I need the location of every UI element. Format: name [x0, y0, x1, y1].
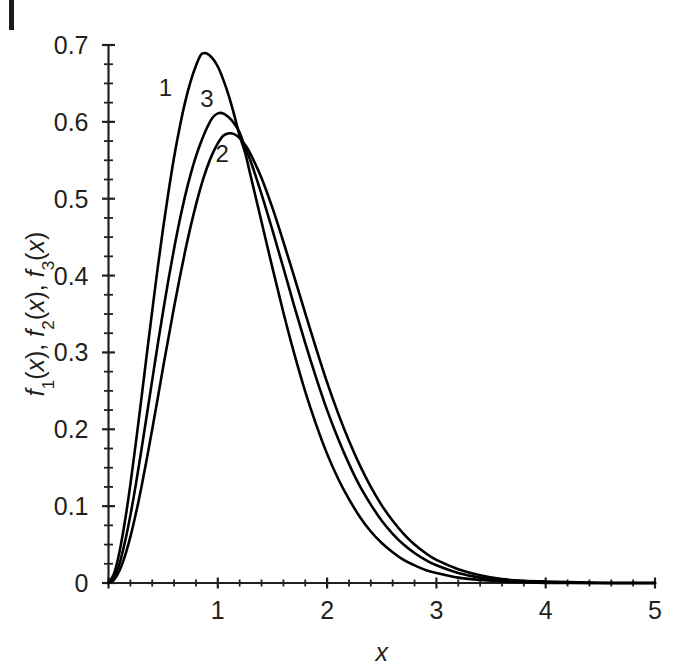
y-tick-label: 0 [75, 569, 89, 597]
curve-2 [109, 133, 656, 583]
y-axis-title-subscript: 3 [39, 261, 58, 270]
curve-3 [109, 113, 656, 583]
x-tick-label: 3 [429, 596, 443, 624]
curve-label-3: 3 [200, 85, 213, 112]
y-axis-title-subscript: 2 [39, 320, 58, 329]
y-tick-label: 0.2 [54, 415, 89, 443]
x-axis-title: x [375, 638, 390, 666]
y-tick-label: 0.7 [54, 31, 89, 59]
figure-container: 12345 00.10.20.30.40.50.60.7 132 xf1(x),… [0, 0, 685, 672]
y-tick-label: 0.5 [54, 185, 89, 213]
x-axis-tick-labels: 12345 [211, 596, 662, 624]
chart-canvas: 12345 00.10.20.30.40.50.60.7 132 xf1(x),… [0, 0, 685, 672]
x-tick-label: 4 [539, 596, 553, 624]
axis-lines [109, 45, 656, 583]
y-tick-label: 0.1 [54, 492, 89, 520]
y-tick-label: 0.6 [54, 108, 89, 136]
curve-label-1: 1 [159, 74, 172, 101]
y-axis-tick-labels: 00.10.20.30.40.50.60.7 [54, 31, 89, 597]
x-tick-label: 1 [211, 596, 225, 624]
x-tick-label: 2 [320, 596, 334, 624]
y-tick-label: 0.4 [54, 262, 89, 290]
y-axis-title-close: ), [21, 284, 49, 299]
axis-titles: xf1(x), f2(x), f3(x) [21, 232, 390, 666]
x-tick-label: 5 [648, 596, 662, 624]
y-tick-label: 0.3 [54, 338, 89, 366]
y-axis-title-close: ), [21, 344, 49, 359]
y-axis-title-close: ) [21, 232, 49, 240]
curve-label-2: 2 [215, 140, 228, 167]
y-axis-title: f1(x), f2(x), f3(x) [21, 232, 58, 397]
data-curves [109, 53, 656, 583]
y-axis-title-subscript: 1 [39, 380, 58, 389]
curve-annotations: 132 [159, 74, 229, 167]
